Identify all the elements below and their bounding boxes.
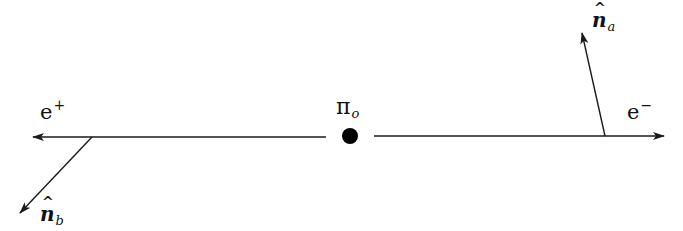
electron-charge: − bbox=[640, 97, 652, 113]
n-a-symbol: n bbox=[592, 10, 607, 30]
electron-symbol: e bbox=[627, 100, 639, 124]
pion-subscript: o bbox=[351, 106, 359, 121]
electron-label: e− bbox=[627, 98, 652, 123]
n-b-subscript: b bbox=[56, 213, 64, 228]
pion-symbol: π bbox=[336, 94, 350, 119]
pion-decay-diagram: e+ e− πo na nb bbox=[0, 0, 683, 231]
n-a-subscript: a bbox=[608, 19, 616, 34]
positron-symbol: e bbox=[40, 100, 52, 124]
positron-label: e+ bbox=[40, 98, 65, 123]
pion-dot bbox=[342, 128, 358, 144]
n-a-vector-arrow bbox=[582, 33, 605, 136]
n-b-vector-arrow bbox=[20, 137, 92, 213]
n-a-label: na bbox=[592, 10, 615, 33]
n-b-label: nb bbox=[40, 204, 64, 227]
positron-charge: + bbox=[53, 97, 65, 113]
pion-label: πo bbox=[336, 96, 359, 120]
n-b-symbol: n bbox=[40, 204, 55, 224]
